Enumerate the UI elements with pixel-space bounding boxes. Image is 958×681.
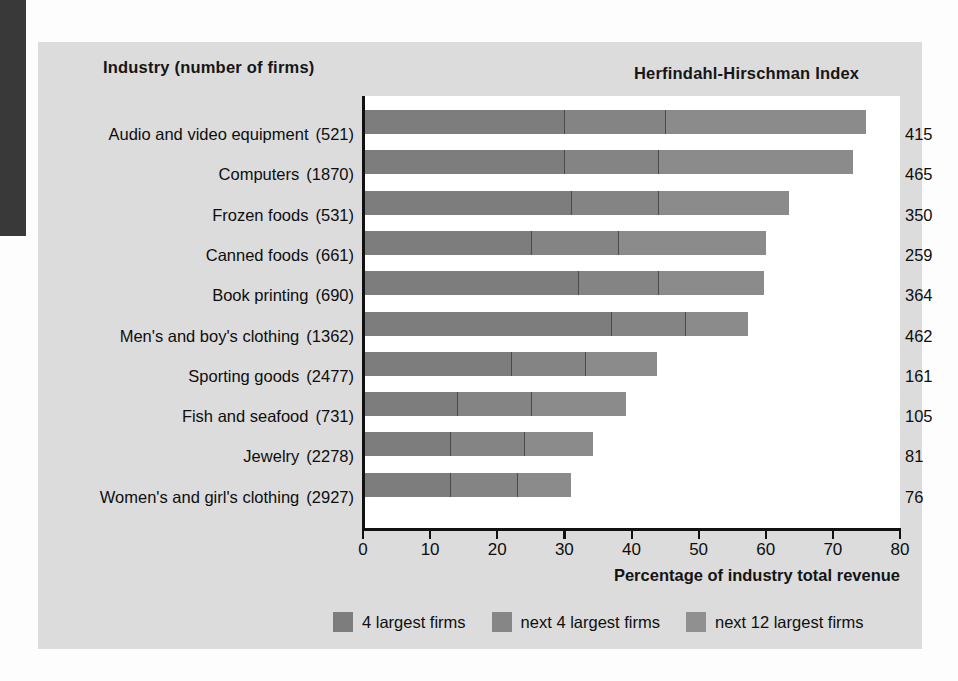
hhi-value: 259 (905, 243, 933, 267)
x-axis-tick (698, 528, 700, 539)
legend-label: next 12 largest firms (715, 613, 864, 632)
category-label: Frozen foods(531) (212, 203, 354, 227)
category-label: Book printing(690) (212, 283, 354, 307)
bar-segment (363, 271, 578, 295)
bar-row (363, 231, 766, 255)
bar-row (363, 473, 571, 497)
bar-segment (611, 312, 685, 336)
page-spine-shadow (0, 0, 26, 236)
legend-swatch-icon (686, 612, 706, 632)
bar-segment (564, 110, 665, 134)
category-name: Computers (219, 165, 300, 183)
x-axis-tick-label: 0 (358, 540, 367, 560)
category-label: Computers(1870) (219, 162, 354, 186)
category-label: Canned foods(661) (206, 243, 354, 267)
column-header-hhi: Herfindahl-Hirschman Index (634, 64, 859, 83)
hhi-value: 350 (905, 203, 933, 227)
bar-segment (564, 150, 658, 174)
bar-segment (531, 392, 626, 416)
bar-segment (450, 432, 524, 456)
figure-page: Industry (number of firms) Herfindahl-Hi… (0, 0, 958, 681)
legend-item: 4 largest firms (333, 612, 466, 632)
hhi-value: 76 (905, 485, 923, 509)
x-axis-tick-label: 20 (488, 540, 507, 560)
bar-row (363, 392, 626, 416)
bar-segment (363, 432, 450, 456)
bar-segment (511, 352, 585, 376)
x-axis-tick (765, 528, 767, 539)
bar-segment (571, 191, 658, 215)
category-firm-count: (2927) (306, 488, 354, 506)
x-axis-tick (631, 528, 633, 539)
hhi-value: 462 (905, 324, 933, 348)
bar-segment (585, 352, 657, 376)
category-label-column: Audio and video equipment(521)Computers(… (48, 108, 354, 518)
bar-segment (363, 312, 611, 336)
hhi-value: 105 (905, 404, 933, 428)
bar-segment (363, 150, 564, 174)
x-axis-tick (362, 528, 364, 539)
bar-segment (363, 191, 571, 215)
x-axis-tick (429, 528, 431, 539)
bar-segment (363, 352, 511, 376)
x-axis-tick (899, 528, 901, 539)
x-axis-tick-label: 50 (689, 540, 708, 560)
chart-legend: 4 largest firmsnext 4 largest firmsnext … (333, 612, 890, 632)
bar-segment (658, 150, 853, 174)
category-firm-count: (521) (315, 125, 354, 143)
bar-row (363, 271, 764, 295)
legend-swatch-icon (333, 612, 353, 632)
x-axis-tick-label: 40 (622, 540, 641, 560)
x-axis-tick (832, 528, 834, 539)
category-firm-count: (2278) (306, 447, 354, 465)
category-firm-count: (1362) (306, 327, 354, 345)
bar-segment (658, 271, 764, 295)
bar-segment (363, 473, 450, 497)
x-axis-tick (496, 528, 498, 539)
category-label: Audio and video equipment(521) (108, 122, 354, 146)
bar-segment (363, 392, 457, 416)
bar-row (363, 191, 789, 215)
category-label: Sporting goods(2477) (188, 364, 354, 388)
category-name: Canned foods (206, 246, 309, 264)
bars-layer (363, 96, 900, 530)
hhi-value: 81 (905, 444, 923, 468)
bar-segment (578, 271, 659, 295)
legend-swatch-icon (492, 612, 512, 632)
category-firm-count: (531) (315, 206, 354, 224)
category-firm-count: (731) (315, 407, 354, 425)
bar-segment (450, 473, 517, 497)
bar-segment (457, 392, 531, 416)
legend-item: next 4 largest firms (492, 612, 660, 632)
x-axis-tick-label: 10 (421, 540, 440, 560)
category-name: Men's and boy's clothing (120, 327, 300, 345)
x-axis-tick-label: 60 (756, 540, 775, 560)
column-header-industry: Industry (number of firms) (103, 58, 314, 77)
bar-segment (363, 110, 564, 134)
bar-row (363, 432, 593, 456)
bar-row (363, 352, 657, 376)
bar-row (363, 312, 748, 336)
hhi-value: 465 (905, 162, 933, 186)
legend-item: next 12 largest firms (686, 612, 864, 632)
legend-label: 4 largest firms (362, 613, 466, 632)
y-axis-line (362, 96, 365, 530)
legend-label: next 4 largest firms (521, 613, 660, 632)
category-name: Fish and seafood (182, 407, 309, 425)
bar-row (363, 110, 866, 134)
category-label: Jewelry(2278) (243, 444, 354, 468)
hhi-value: 364 (905, 283, 933, 307)
bar-row (363, 150, 853, 174)
category-name: Jewelry (243, 447, 299, 465)
hhi-value: 415 (905, 122, 933, 146)
category-firm-count: (1870) (306, 165, 354, 183)
category-firm-count: (661) (315, 246, 354, 264)
category-label: Men's and boy's clothing(1362) (120, 324, 354, 348)
category-label: Women's and girl's clothing(2927) (100, 485, 354, 509)
bar-segment (685, 312, 748, 336)
bar-segment (363, 231, 531, 255)
category-firm-count: (690) (315, 286, 354, 304)
x-axis-tick-label: 80 (891, 540, 910, 560)
category-name: Sporting goods (188, 367, 299, 385)
category-firm-count: (2477) (306, 367, 354, 385)
